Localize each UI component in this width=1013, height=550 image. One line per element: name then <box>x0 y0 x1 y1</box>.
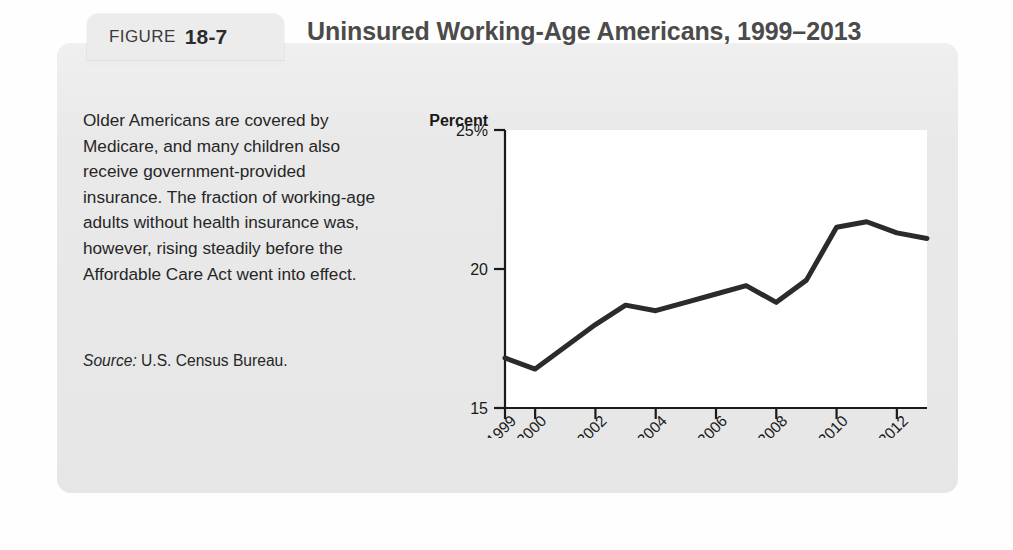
x-tick-label: 1999 <box>483 412 519 438</box>
x-tick-label: 2010 <box>814 412 851 438</box>
chart-canvas: 152025% 19992000200220042006200820102012… <box>415 108 935 438</box>
x-tick-label: 2004 <box>634 412 671 438</box>
line-chart: 152025% 19992000200220042006200820102012… <box>415 108 935 438</box>
x-tick-label: 2008 <box>754 412 790 438</box>
x-tick-label: 2000 <box>513 412 550 438</box>
source-value: U.S. Census Bureau. <box>141 352 287 369</box>
figure-caption: Older Americans are covered by Medicare,… <box>83 108 383 287</box>
figure-tab-word: FIGURE <box>109 27 176 47</box>
figure-title: Uninsured Working-Age Americans, 1999–20… <box>307 17 861 46</box>
y-tick-label: 20 <box>470 261 488 278</box>
x-tick-label: 2006 <box>694 412 730 438</box>
y-tick-label: 15 <box>470 400 488 417</box>
source-label: Source: <box>83 352 137 369</box>
figure-number: 18-7 <box>185 25 228 49</box>
figure-screenshot: FIGURE 18-7 Uninsured Working-Age Americ… <box>0 0 1013 550</box>
x-tick-label: 2002 <box>573 412 609 438</box>
x-axis-tick-labels: 19992000200220042006200820102012 <box>483 412 911 438</box>
plot-background <box>505 130 927 408</box>
figure-source: Source: U.S. Census Bureau. <box>83 352 288 370</box>
y-axis-title: Percent <box>429 112 488 129</box>
figure-tab: FIGURE 18-7 <box>87 14 284 60</box>
x-tick-label: 2012 <box>875 412 911 438</box>
y-axis-ticks <box>494 130 505 408</box>
y-axis-tick-labels: 152025% <box>456 122 488 417</box>
